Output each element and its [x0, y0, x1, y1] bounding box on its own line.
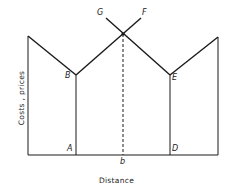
label-D: D [172, 145, 178, 153]
cost-curve-left-to-B [28, 36, 76, 75]
diagram-lines [0, 0, 233, 193]
diagram: G F B E A D b Distance Costs , prices [0, 0, 233, 193]
y-axis-label: Costs , prices [17, 71, 26, 126]
cost-curve-B-to-F [76, 18, 141, 75]
cost-curve-E-to-right [170, 37, 218, 75]
label-A: A [67, 145, 72, 153]
label-B: B [65, 72, 71, 80]
label-G: G [97, 9, 103, 17]
x-axis-label: Distance [0, 176, 233, 185]
cost-curve-G-to-E [106, 18, 170, 75]
intersection-point [121, 32, 124, 35]
label-b: b [120, 158, 125, 166]
label-F: F [142, 9, 147, 17]
label-E: E [172, 74, 177, 82]
